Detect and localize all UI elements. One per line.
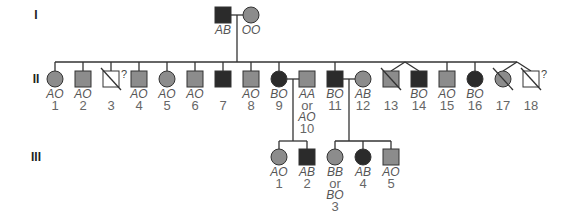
individual-number: 6 [191,98,198,113]
individual-number: 10 [300,121,314,136]
male-symbol-ii-6 [187,71,203,87]
male-symbol-iii-5 [383,149,399,165]
pedigree-svg: IIIIIIABOOAO1AO2?3AO4AO5AO67AO8BO9AAorAO… [0,0,571,223]
individual-number: 14 [412,98,426,113]
female-symbol-ii-5 [159,71,175,87]
male-symbol-ii-14 [411,71,427,87]
female-symbol-iii-1 [271,149,287,165]
female-symbol-iii-4 [355,149,371,165]
individual-number: 13 [384,98,398,113]
female-symbol-iii-3 [327,149,343,165]
female-symbol-i-2 [243,7,259,23]
female-symbol-ii-1 [47,71,63,87]
individual-number: 2 [303,176,310,191]
male-symbol-ii-10 [299,71,315,87]
genotype-label: AB [214,23,231,37]
female-symbol-ii-9 [271,71,287,87]
generation-label-i: I [34,8,37,22]
male-symbol-i-1 [215,7,231,23]
twin-line [405,62,419,71]
male-symbol-ii-8 [243,71,259,87]
individual-number: 3 [107,98,114,113]
pedigree-chart: IIIIIIABOOAO1AO2?3AO4AO5AO67AO8BO9AAorAO… [0,0,571,223]
female-symbol-ii-12 [355,71,371,87]
male-symbol-iii-2 [299,149,315,165]
individual-number: 9 [275,98,282,113]
individual-number: 17 [496,98,510,113]
twin-line [391,62,405,71]
individual-number: 8 [247,98,254,113]
twin-line [517,62,531,71]
individual-number: 5 [387,176,394,191]
genotype-label: OO [242,23,261,37]
unknown-mark: ? [541,68,547,80]
male-symbol-ii-4 [131,71,147,87]
individual-number: 15 [440,98,454,113]
male-symbol-ii-11 [327,71,343,87]
unknown-mark: ? [121,68,127,80]
individual-number: 1 [275,176,282,191]
individual-number: 2 [79,98,86,113]
female-symbol-ii-16 [467,71,483,87]
individual-number: 7 [219,98,226,113]
individual-number: 4 [359,176,366,191]
male-symbol-ii-2 [75,71,91,87]
individual-number: 5 [163,98,170,113]
individual-number: 18 [524,98,538,113]
generation-label-ii: II [33,72,40,86]
individual-number: 1 [51,98,58,113]
individual-number: 12 [356,98,370,113]
male-symbol-ii-15 [439,71,455,87]
individual-number: 4 [135,98,142,113]
individual-number: 16 [468,98,482,113]
individual-number: 3 [331,199,338,214]
male-symbol-ii-7 [215,71,231,87]
generation-label-iii: III [31,150,41,164]
twin-line [503,62,517,71]
individual-number: 11 [328,98,342,113]
